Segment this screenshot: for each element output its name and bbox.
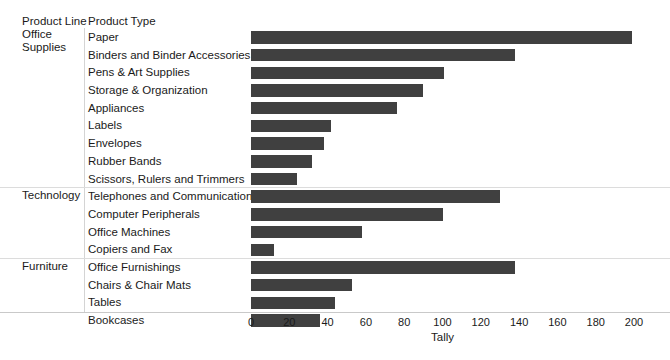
bar[interactable]	[251, 173, 297, 185]
product-type-label: Tables	[88, 295, 121, 310]
product-line-label: Technology	[22, 189, 80, 202]
bar[interactable]	[251, 226, 362, 238]
product-type-label: Computer Peripherals	[88, 207, 200, 222]
product-line-label: Furniture	[22, 260, 68, 273]
product-type-label: Scissors, Rulers and Trimmers	[88, 172, 245, 187]
x-axis-tick-label: 140	[510, 316, 528, 328]
bar[interactable]	[251, 190, 500, 202]
product-type-label: Pens & Art Supplies	[88, 65, 190, 80]
chart-row[interactable]: TechnologyTelephones and Communication	[0, 188, 670, 206]
x-axis-tick-label: 40	[321, 316, 333, 328]
column-header-product-type: Product Type	[88, 15, 156, 27]
chart-row[interactable]: Rubber Bands	[0, 153, 670, 171]
chart-row[interactable]: Appliances	[0, 100, 670, 118]
chart-row[interactable]: Tables	[0, 294, 670, 312]
product-type-label: Bookcases	[88, 313, 144, 328]
chart-row[interactable]: Scissors, Rulers and Trimmers	[0, 171, 670, 189]
group-separator	[0, 258, 670, 259]
bar[interactable]	[251, 120, 331, 132]
bar[interactable]	[251, 84, 423, 96]
x-axis-title: Tally	[431, 331, 454, 343]
chart-row[interactable]: Pens & Art Supplies	[0, 64, 670, 82]
x-axis-tick-label: 120	[472, 316, 490, 328]
bar[interactable]	[251, 155, 312, 167]
x-axis-tick-label: 200	[625, 316, 643, 328]
product-type-label: Envelopes	[88, 136, 142, 151]
product-type-label: Labels	[88, 118, 122, 133]
bar[interactable]	[251, 49, 515, 61]
product-type-label: Rubber Bands	[88, 154, 162, 169]
chart-row[interactable]: Binders and Binder Accessories	[0, 47, 670, 65]
chart-row[interactable]: Copiers and Fax	[0, 241, 670, 259]
bar[interactable]	[251, 137, 324, 149]
bar[interactable]	[251, 297, 335, 309]
column-header-product-line: Product Line	[22, 15, 87, 27]
x-axis-line	[0, 312, 670, 313]
product-type-label: Appliances	[88, 101, 144, 116]
x-axis-tick-label: 20	[283, 316, 295, 328]
bar[interactable]	[251, 31, 632, 43]
x-axis-tick-label: 60	[360, 316, 372, 328]
x-axis-tick-label: 160	[548, 316, 566, 328]
x-axis-tick-label: 180	[587, 316, 605, 328]
product-type-label: Copiers and Fax	[88, 242, 172, 257]
bar[interactable]	[251, 102, 397, 114]
tally-bar-chart: Product Line Product Type OfficeSupplies…	[0, 0, 670, 360]
product-type-label: Office Furnishings	[88, 260, 180, 275]
chart-row[interactable]: Storage & Organization	[0, 82, 670, 100]
product-line-label-word: Furniture	[22, 260, 68, 273]
bar[interactable]	[251, 261, 515, 273]
chart-row[interactable]: Computer Peripherals	[0, 206, 670, 224]
x-axis-tick-label: 80	[398, 316, 410, 328]
product-type-label: Office Machines	[88, 225, 170, 240]
product-type-label: Paper	[88, 30, 119, 45]
product-type-label: Telephones and Communication	[88, 189, 252, 204]
product-type-label: Chairs & Chair Mats	[88, 278, 191, 293]
chart-rows: OfficeSuppliesPaperBinders and Binder Ac…	[0, 29, 670, 330]
chart-row[interactable]: OfficeSuppliesPaper	[0, 29, 670, 47]
chart-row[interactable]: Office Machines	[0, 224, 670, 242]
x-axis-tick-label: 100	[433, 316, 451, 328]
chart-row[interactable]: Chairs & Chair Mats	[0, 277, 670, 295]
bar[interactable]	[251, 67, 444, 79]
bar[interactable]	[251, 279, 352, 291]
bar[interactable]	[251, 208, 443, 220]
product-type-label: Binders and Binder Accessories	[88, 48, 250, 63]
product-type-label: Storage & Organization	[88, 83, 208, 98]
product-line-label-word: Office	[22, 28, 66, 41]
chart-row[interactable]: Labels	[0, 117, 670, 135]
chart-row[interactable]: Bookcases	[0, 312, 670, 330]
chart-row[interactable]: FurnitureOffice Furnishings	[0, 259, 670, 277]
bar[interactable]	[251, 244, 274, 256]
product-line-label-word: Technology	[22, 189, 80, 202]
x-axis-tick-label: 0	[248, 316, 254, 328]
group-separator	[0, 187, 670, 188]
chart-row[interactable]: Envelopes	[0, 135, 670, 153]
